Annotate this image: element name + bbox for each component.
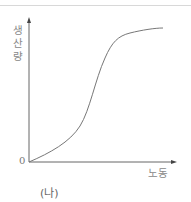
figure-caption: (나)	[40, 184, 59, 200]
y-axis-label: 생 산 량	[12, 24, 24, 63]
y-axis-label-char: 량	[12, 50, 24, 63]
y-axis-label-char: 생	[12, 24, 24, 37]
y-axis-arrow-icon	[27, 17, 31, 23]
origin-label: 0	[19, 155, 25, 166]
production-curve	[29, 28, 163, 162]
x-axis-arrow-icon	[171, 160, 177, 164]
y-axis-label-char: 산	[12, 37, 24, 50]
x-axis-label: 노동	[148, 165, 168, 180]
